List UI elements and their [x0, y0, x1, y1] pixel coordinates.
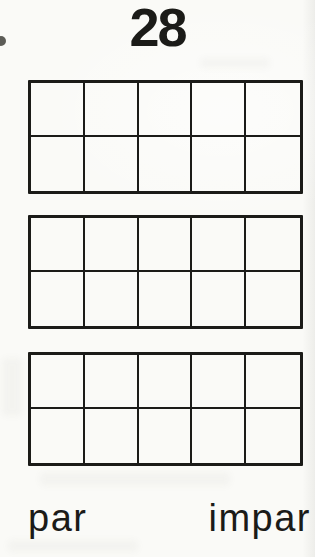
bleed-through-smudge: [200, 58, 270, 68]
ten-frames-group: [28, 80, 303, 466]
ten-frame-cell: [31, 409, 85, 463]
ten-frame-cell: [192, 218, 246, 272]
ten-frame-cell: [85, 272, 139, 326]
bleed-through-smudge: [8, 540, 138, 552]
label-impar: impar: [208, 499, 311, 537]
ten-frame-cell: [139, 409, 193, 463]
ten-frame-cell: [246, 218, 300, 272]
ten-frame-cell: [139, 272, 193, 326]
worksheet-page: 28 par impar: [0, 0, 315, 557]
ten-frame-cell: [31, 137, 85, 191]
answer-labels: par impar: [28, 499, 311, 537]
ten-frame-cell: [139, 83, 193, 137]
ten-frame-cell: [31, 272, 85, 326]
ten-frame-cell: [192, 137, 246, 191]
label-par: par: [28, 499, 87, 537]
ten-frame-cell: [139, 137, 193, 191]
bleed-through-smudge: [2, 358, 22, 416]
bleed-through-smudge: [40, 472, 230, 486]
ten-frame-1: [28, 80, 303, 194]
ten-frame-cell: [85, 409, 139, 463]
ten-frame-cell: [246, 137, 300, 191]
ten-frame-3: [28, 352, 303, 466]
ten-frame-cell: [246, 409, 300, 463]
ten-frame-cell: [139, 218, 193, 272]
ten-frame-cell: [31, 355, 85, 409]
ten-frame-cell: [85, 83, 139, 137]
ten-frame-cell: [85, 137, 139, 191]
ten-frame-cell: [246, 355, 300, 409]
ten-frame-cell: [192, 272, 246, 326]
ten-frame-cell: [139, 355, 193, 409]
ten-frame-cell: [192, 409, 246, 463]
ten-frame-cell: [192, 83, 246, 137]
ten-frame-cell: [31, 218, 85, 272]
ten-frame-cell: [246, 83, 300, 137]
page-number: 28: [0, 0, 315, 54]
ten-frame-cell: [85, 218, 139, 272]
ten-frame-cell: [31, 83, 85, 137]
ten-frame-2: [28, 215, 303, 329]
ten-frame-cell: [85, 355, 139, 409]
ten-frame-cell: [246, 272, 300, 326]
ten-frame-cell: [192, 355, 246, 409]
